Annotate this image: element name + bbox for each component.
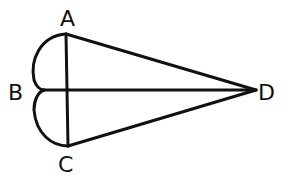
vertex-label-a: A <box>60 6 75 31</box>
edge-c-d <box>68 90 256 146</box>
graph-diagram: A B C D <box>0 0 292 180</box>
vertex-label-d: D <box>258 80 275 105</box>
edge-b-c-arc <box>34 90 68 146</box>
vertex-label-c: C <box>58 152 73 177</box>
graph-svg: A B C D <box>0 0 292 180</box>
edge-a-d <box>66 34 256 90</box>
vertex-label-b: B <box>8 80 23 105</box>
edge-a-b-arc <box>33 34 66 90</box>
